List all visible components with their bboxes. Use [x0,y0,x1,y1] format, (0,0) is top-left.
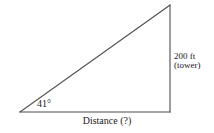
base-label: Distance (?) [61,116,153,127]
triangle-figure: 41° 200 ft (tower) Distance (?) [0,0,214,133]
height-label: 200 ft (tower) [174,52,201,71]
angle-label: 41° [37,99,51,110]
height-note-text: (tower) [174,61,201,70]
triangle-hypotenuse-line [20,5,170,112]
